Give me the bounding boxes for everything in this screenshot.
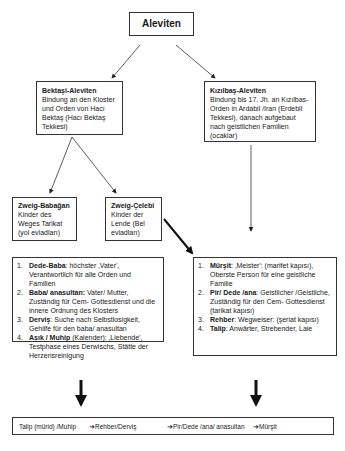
hierarchy-list-bektasi: 1.Dede-Baba: höchster ‚Vater', Verantwor… bbox=[12, 257, 164, 342]
node-bektasi-aleviten: Bektaşi-Aleviten Bindung an den Kloster … bbox=[36, 81, 123, 135]
node-title: Kızılbaş-Aleviten bbox=[210, 86, 310, 95]
node-text: Kinder des Weges Tarikat (yol evladları) bbox=[18, 211, 62, 236]
list-desc: : Wegweiser: (şeriat kapısı) bbox=[234, 316, 319, 323]
node-text: Kinder der Lende (Bel evladları) bbox=[111, 211, 145, 236]
node-title: Zweig-Babağan bbox=[18, 201, 71, 210]
node-zweig-babagan: Zweig-Babağan Kinder des Weges Tarikat (… bbox=[12, 197, 77, 241]
list-item: 4.Aşık / Muhip (Kalender): ‚Liebende', T… bbox=[29, 333, 159, 360]
path-step-pir: ➔Pir/Dede /ana/ anasultan bbox=[167, 418, 245, 435]
list-term: Rehber bbox=[210, 316, 234, 323]
list-term: Dede-Baba bbox=[29, 262, 66, 269]
list-item: 2.Pir/ Dede /ana: Geistlicher /Geistlich… bbox=[210, 288, 332, 315]
list-item: 1.Mürşit: ‚Meister': (marifet kapısı), O… bbox=[210, 261, 332, 288]
hierarchy-list-kizilbas: 1.Mürşit: ‚Meister': (marifet kapısı), O… bbox=[193, 257, 337, 356]
list-term: Aşık / Muhip bbox=[29, 334, 70, 341]
list-term: Baba/ anasultan: bbox=[29, 289, 85, 296]
path-step-mursit: ➔Mürşit bbox=[253, 418, 277, 435]
node-zweig-celebi: Zweig-Çelebi Kinder der Lende (Bel evlad… bbox=[105, 197, 162, 241]
path-step-talip: Talip (mürid) /Muhip bbox=[19, 418, 76, 435]
list-desc: : Anwärter, Strebender, Laie bbox=[226, 325, 312, 332]
node-kizilbas-aleviten: Kızılbaş-Aleviten Bindung bis 17. Jh. an… bbox=[204, 81, 316, 142]
list-item: 3.Rehber: Wegweiser: (şeriat kapısı) bbox=[210, 315, 332, 324]
list-term: Derviş bbox=[29, 316, 50, 323]
node-text: Bindung an den Kloster und Orden von Hac… bbox=[42, 96, 115, 130]
path-step-rehber: ➔Rehber/Derviş bbox=[89, 418, 137, 435]
list-item: 1.Dede-Baba: höchster ‚Vater', Verantwor… bbox=[29, 261, 159, 288]
list-item: 4.Talip: Anwärter, Strebender, Laie bbox=[210, 324, 332, 333]
node-title: Zweig-Çelebi bbox=[111, 201, 156, 210]
root-label: Aleviten bbox=[142, 18, 181, 29]
list-term: Talip bbox=[210, 325, 226, 332]
list-item: 3.Derviş: Suche nach Selbstlosigkeit, Ge… bbox=[29, 315, 159, 333]
node-title: Bektaşi-Aleviten bbox=[42, 86, 117, 95]
list-term: Pir/ Dede /ana bbox=[210, 289, 256, 296]
progression-path: Talip (mürid) /Muhip ➔Rehber/Derviş ➔Pir… bbox=[12, 417, 334, 435]
node-text: Bindung bis 17. Jh. an Kızılbas-Orden in… bbox=[210, 96, 308, 139]
list-term: Mürşit bbox=[210, 262, 231, 269]
list-item: 2.Baba/ anasultan: Vater/ Mutter, Zustän… bbox=[29, 288, 159, 315]
root-node-aleviten: Aleviten bbox=[129, 12, 194, 36]
